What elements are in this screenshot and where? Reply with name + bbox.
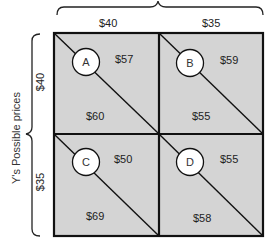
payoff-matrix-graphic xyxy=(0,0,266,243)
cell-b-upper-value: $59 xyxy=(220,54,238,66)
cell-d-id: D xyxy=(177,149,203,175)
cell-c-lower-value: $69 xyxy=(86,210,104,222)
cell-a-lower-value: $60 xyxy=(86,110,104,122)
top-brace xyxy=(57,1,263,15)
column-price-1: $40 xyxy=(99,17,117,29)
cell-c-id: C xyxy=(73,149,99,175)
row-price-1: $40 xyxy=(34,73,46,91)
column-price-2: $35 xyxy=(202,17,220,29)
cell-b-lower-value: $55 xyxy=(192,110,210,122)
cell-d-upper-value: $55 xyxy=(220,153,238,165)
cell-c-upper-value: $50 xyxy=(114,153,132,165)
row-price-2: $35 xyxy=(34,173,46,191)
cell-d-lower-value: $58 xyxy=(193,212,211,224)
cell-a-upper-value: $57 xyxy=(115,53,133,65)
cell-a-id: A xyxy=(73,49,99,75)
left-brace xyxy=(26,34,40,236)
cell-b-id: B xyxy=(177,50,203,76)
y-axis-label: Y's Possible prices xyxy=(10,78,22,198)
